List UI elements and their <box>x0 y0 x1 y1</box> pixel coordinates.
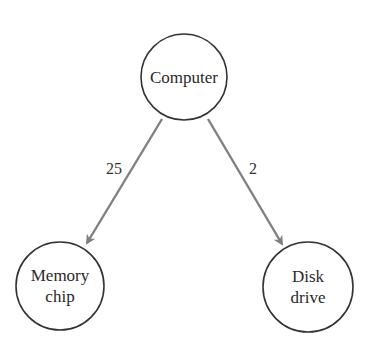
node-label: Computer <box>150 68 218 87</box>
node-computer: Computer <box>141 34 227 120</box>
node-label-line-1: Disk <box>292 267 325 286</box>
arrow-line <box>208 119 282 244</box>
node-label-line-2: drive <box>291 288 326 307</box>
node-label-line-2: chip <box>45 287 74 306</box>
node-circle <box>16 242 104 330</box>
node-memory-chip: Memory chip <box>16 242 104 330</box>
edge-computer-to-disk-drive: 2 <box>208 119 282 244</box>
edge-computer-to-memory-chip: 25 <box>87 119 162 243</box>
edge-label: 25 <box>106 160 122 177</box>
node-circle <box>263 242 353 332</box>
node-disk-drive: Disk drive <box>263 242 353 332</box>
node-label-line-1: Memory <box>31 266 90 285</box>
edge-label: 2 <box>249 160 257 177</box>
arrow-line <box>87 119 162 243</box>
diagram-canvas: 25 2 Computer Memory chip Disk drive <box>0 0 373 357</box>
